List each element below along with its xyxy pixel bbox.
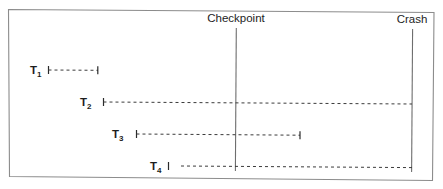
transaction-label-t1-sub: 1 [37,70,42,79]
transaction-label-t3-base: T [112,128,119,140]
crash-marker: Crash [397,13,428,172]
transaction-label-t3: T3 [112,128,124,143]
transaction-span-t4 [181,166,412,168]
transaction-label-t2: T2 [80,96,92,111]
transaction-recovery-figure: Checkpoint Crash T1 T2 [0,0,443,189]
transaction-span-t3 [137,134,301,135]
transaction-label-t1-base: T [30,64,37,76]
transaction-row-t3: T3 [112,128,300,143]
transaction-row-t1: T1 [30,64,98,79]
transaction-label-t4: T4 [150,160,162,175]
transaction-label-t4-base: T [150,160,157,172]
crash-vertical-line [412,29,413,172]
figure-border [9,10,435,181]
transaction-label-t3-sub: 3 [119,134,124,143]
crash-label: Crash [397,13,428,25]
checkpoint-marker: Checkpoint [207,12,265,171]
transaction-label-t4-sub: 4 [157,166,162,175]
transaction-row-t2: T2 [80,96,412,111]
transaction-label-t2-sub: 2 [87,102,92,111]
transaction-label-t1: T1 [30,64,42,79]
transaction-row-t4: T4 [150,160,412,175]
checkpoint-vertical-line [235,28,236,171]
transaction-label-t2-base: T [80,96,87,108]
checkpoint-label: Checkpoint [207,12,265,24]
transaction-span-t2 [104,102,413,104]
